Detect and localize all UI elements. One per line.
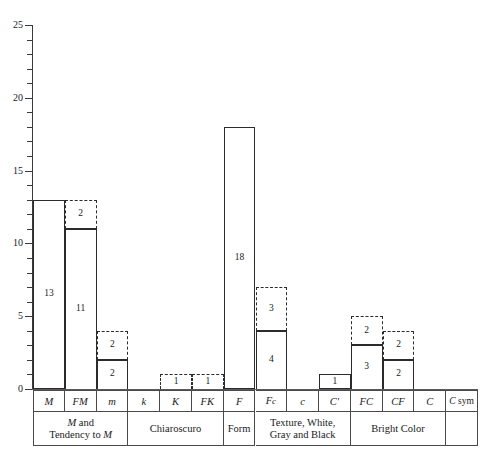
category-label-cell-10: C' bbox=[319, 390, 351, 412]
y-axis-tick-label: 10 bbox=[5, 238, 23, 248]
category-label-text: Fc bbox=[266, 395, 276, 407]
y-axis-minor-tick bbox=[27, 40, 32, 41]
category-label-cell-7: F bbox=[224, 390, 256, 412]
y-axis-minor-tick bbox=[27, 287, 32, 288]
y-axis-minor-tick bbox=[27, 54, 32, 55]
category-label-text: M bbox=[45, 396, 54, 407]
y-axis-minor-tick bbox=[27, 156, 32, 157]
y-axis-minor-tick bbox=[27, 200, 32, 201]
y-axis-minor-tick bbox=[27, 345, 32, 346]
category-label-text: K bbox=[172, 396, 179, 407]
y-axis-minor-tick bbox=[27, 185, 32, 186]
category-label-cell-4: k bbox=[128, 390, 160, 412]
category-label-cell-8: Fc bbox=[256, 390, 288, 412]
bar-value-label: 2 bbox=[65, 208, 97, 218]
y-axis-minor-tick bbox=[27, 229, 32, 230]
bar-value-label: 4 bbox=[256, 354, 288, 364]
y-axis-minor-tick bbox=[27, 141, 32, 142]
y-axis-major-tick bbox=[25, 243, 32, 244]
y-axis-major-tick bbox=[25, 98, 32, 99]
category-label-text: FM bbox=[73, 396, 88, 407]
group-label-cell-6 bbox=[446, 412, 478, 446]
category-label-text: c bbox=[300, 396, 305, 407]
bar-value-label: 13 bbox=[33, 288, 65, 298]
y-axis-tick-label: 20 bbox=[5, 93, 23, 103]
category-label-cell-14: C sym bbox=[446, 390, 478, 412]
bar-value-label: 2 bbox=[97, 368, 129, 378]
y-axis-tick-label: 25 bbox=[5, 20, 23, 30]
bar-value-label: 1 bbox=[192, 376, 224, 386]
y-axis-major-tick bbox=[25, 389, 32, 390]
y-axis-major-tick bbox=[25, 171, 32, 172]
bar-value-label: 2 bbox=[351, 325, 383, 335]
category-label-cell-5: K bbox=[160, 390, 192, 412]
group-label-cell-3: Form bbox=[224, 412, 256, 446]
category-label-text: C' bbox=[330, 396, 339, 407]
bar-value-label: 2 bbox=[383, 339, 415, 349]
y-axis-major-tick bbox=[25, 316, 32, 317]
category-label-cell-3: m bbox=[97, 390, 129, 412]
category-label-cell-9: c bbox=[287, 390, 319, 412]
y-axis-minor-tick bbox=[27, 331, 32, 332]
y-axis-minor-tick bbox=[27, 360, 32, 361]
category-label-text: m bbox=[108, 396, 116, 407]
bar-value-label: 3 bbox=[256, 303, 288, 313]
category-label-text: FC bbox=[360, 396, 373, 407]
y-axis-minor-tick bbox=[27, 127, 32, 128]
bar-value-label: 1 bbox=[319, 376, 351, 386]
category-label-text: C sym bbox=[449, 396, 474, 407]
group-label-text: Form bbox=[228, 423, 251, 435]
bar-value-label: 2 bbox=[97, 339, 129, 349]
category-label-cell-13: C bbox=[414, 390, 446, 412]
category-label-text: k bbox=[141, 396, 146, 407]
bar-value-label: 1 bbox=[160, 376, 192, 386]
y-axis-minor-tick bbox=[27, 258, 32, 259]
category-label-text: CF bbox=[391, 396, 404, 407]
y-axis-minor-tick bbox=[27, 214, 32, 215]
bar-value-label: 3 bbox=[351, 361, 383, 371]
y-axis-minor-tick bbox=[27, 83, 32, 84]
bar-value-label: 2 bbox=[383, 368, 415, 378]
category-label-cell-1: M bbox=[33, 390, 65, 412]
category-label-text: C bbox=[426, 396, 433, 407]
y-axis-tick-label: 5 bbox=[5, 311, 23, 321]
group-label-cell-5: Bright Color bbox=[351, 412, 446, 446]
histogram-figure: 0510152025131122211184313222MFMmkKFKFFcc… bbox=[0, 0, 487, 459]
category-label-cell-11: FC bbox=[351, 390, 383, 412]
y-axis-tick-label: 15 bbox=[5, 166, 23, 176]
group-label-cell-4: Texture, White,Gray and Black bbox=[256, 412, 351, 446]
group-label-text: M andTendency to M bbox=[49, 417, 112, 441]
y-axis-tick-label: 0 bbox=[5, 384, 23, 394]
category-label-text: F bbox=[236, 396, 242, 407]
group-label-text: Chiaroscuro bbox=[150, 423, 201, 435]
bar-value-label: 18 bbox=[224, 252, 256, 262]
category-label-cell-12: CF bbox=[383, 390, 415, 412]
category-label-text: FK bbox=[201, 396, 214, 407]
y-axis-minor-tick bbox=[27, 302, 32, 303]
y-axis-minor-tick bbox=[27, 112, 32, 113]
category-label-cell-2: FM bbox=[65, 390, 97, 412]
category-label-cell-6: FK bbox=[192, 390, 224, 412]
bar-value-label: 11 bbox=[65, 303, 97, 313]
group-label-text: Bright Color bbox=[371, 423, 424, 435]
y-axis-minor-tick bbox=[27, 273, 32, 274]
y-axis-major-tick bbox=[25, 25, 32, 26]
group-label-text: Texture, White,Gray and Black bbox=[270, 417, 336, 441]
y-axis-minor-tick bbox=[27, 374, 32, 375]
group-label-cell-1: M andTendency to M bbox=[33, 412, 128, 446]
y-axis-minor-tick bbox=[27, 69, 32, 70]
group-label-cell-2: Chiaroscuro bbox=[128, 412, 223, 446]
